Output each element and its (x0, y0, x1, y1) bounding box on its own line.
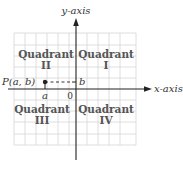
quadrant-1-label: Quadrant I (78, 48, 134, 71)
x-axis-arrow-icon (144, 86, 152, 92)
point-label: P(a, b) (1, 76, 35, 87)
x-axis-label: x-axis (154, 83, 183, 94)
y-axis-label: y-axis (61, 5, 91, 16)
svg-text:IV: IV (99, 114, 113, 126)
point-b-label: b (79, 76, 85, 87)
point-a-label: a (42, 90, 48, 101)
quadrant-2-label: Quadrant II (18, 48, 74, 71)
x-axis (8, 86, 152, 92)
coordinate-plane-diagram: y-axis x-axis 0 Quadrant II Quadrant I Q… (0, 0, 183, 169)
svg-text:I: I (104, 59, 109, 71)
quadrant-4-label: Quadrant IV (78, 103, 134, 126)
point-p (43, 80, 76, 89)
y-axis-arrow-icon (73, 18, 79, 26)
svg-text:III: III (35, 114, 50, 126)
quadrant-3-label: Quadrant III (14, 103, 70, 126)
origin-label: 0 (67, 91, 73, 101)
point-dot-icon (43, 80, 47, 84)
svg-text:II: II (41, 59, 51, 71)
